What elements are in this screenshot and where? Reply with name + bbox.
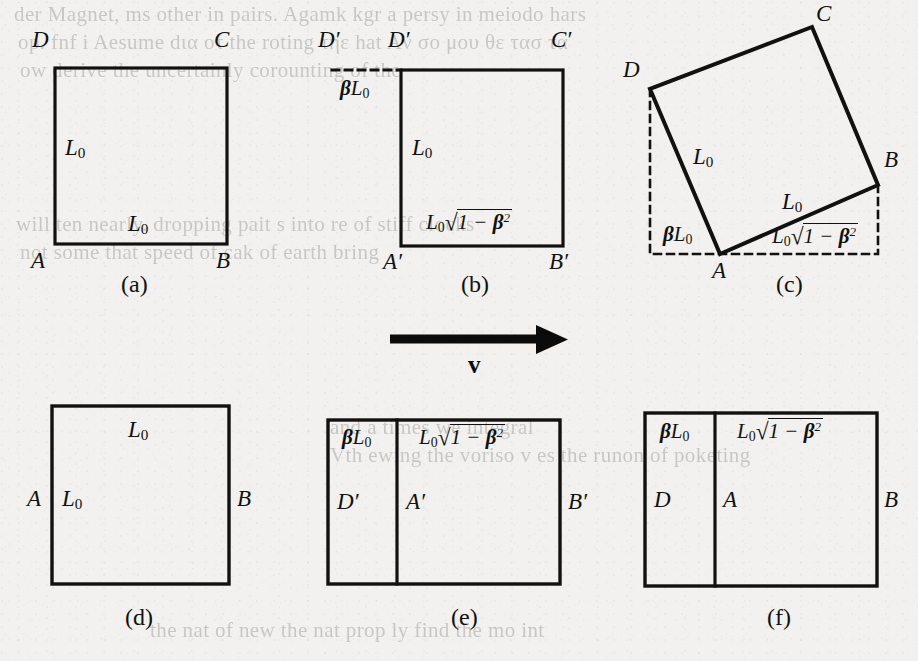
panel-b-vertex-Dprime-left: D′ xyxy=(318,28,340,51)
panel-c-caption: (c) xyxy=(776,272,803,296)
panel-f-section-label-beta: βL0 xyxy=(660,421,689,444)
velocity-arrow-label: v xyxy=(468,352,481,377)
panel-b-vertex-Dprime-right: D′ xyxy=(388,28,410,51)
figure-page: der Magnet, ms other in pairs. Agamk kgr… xyxy=(0,0,918,661)
panel-c-baseline-label-contracted: L0√1 − β2 xyxy=(772,224,858,249)
panel-b-vertex-Aprime: A′ xyxy=(383,250,402,273)
panel-c-vertex-B: B xyxy=(884,148,898,171)
panel-e-vertex-Bprime: B′ xyxy=(568,490,587,513)
panel-b-dashed-length-label: βL0 xyxy=(340,78,369,101)
panel-a-caption: (a) xyxy=(121,272,148,296)
panel-e-vertex-Dprime: D′ xyxy=(337,490,359,513)
panel-d-vertex-B: B xyxy=(237,487,251,510)
panel-e-vertex-Aprime: A′ xyxy=(406,490,425,513)
panel-b-vertex-Bprime: B′ xyxy=(549,250,568,273)
panel-c-baseline-label-beta: βL0 xyxy=(663,224,692,247)
panel-b-side-label-contracted: L0√1 − β2 xyxy=(426,210,512,235)
panel-a-vertex-A: A xyxy=(31,249,45,272)
panel-c-rotated-square xyxy=(650,27,878,254)
panel-a-vertex-C: C xyxy=(214,28,229,51)
panel-b-vertex-Cprime: C′ xyxy=(551,28,571,51)
panel-d-vertex-A: A xyxy=(27,487,41,510)
figure-drawing-layer: D C A B L0 L0 (a) D′ D′ C′ A′ B′ βL0 L0 … xyxy=(0,0,918,661)
panel-d-side-label-left: L0 xyxy=(62,487,82,512)
panel-f-vertex-A: A xyxy=(723,488,737,511)
panel-d-caption: (d) xyxy=(125,605,153,629)
figure-vector-graphics xyxy=(0,0,918,661)
panel-e-section-label-beta: βL0 xyxy=(342,427,371,450)
panel-c-side-label-AB: L0 xyxy=(782,190,802,215)
panel-c-vertex-C: C xyxy=(816,2,831,25)
panel-c-vertex-A: A xyxy=(712,259,726,282)
panel-f-vertex-D: D xyxy=(654,488,671,511)
panel-a-vertex-D: D xyxy=(32,28,49,51)
panel-f-section-label-contracted: L0√1 − β2 xyxy=(737,419,823,444)
velocity-arrow xyxy=(390,325,568,354)
panel-d-side-label-top: L0 xyxy=(128,418,148,443)
panel-b-side-label-vertical: L0 xyxy=(412,136,432,161)
panel-e-caption: (e) xyxy=(451,605,478,629)
panel-f-vertex-B: B xyxy=(884,488,898,511)
panel-f-caption: (f) xyxy=(767,605,791,629)
panel-a-side-label-vertical: L0 xyxy=(65,136,85,161)
panel-e-section-label-contracted: L0√1 − β2 xyxy=(419,425,505,450)
panel-a-vertex-B: B xyxy=(216,249,230,272)
panel-c-side-label-DA: L0 xyxy=(693,145,713,170)
panel-b-caption: (b) xyxy=(461,272,489,296)
panel-c-vertex-D: D xyxy=(623,58,640,81)
velocity-arrow-head xyxy=(536,325,568,354)
panel-a-side-label-horizontal: L0 xyxy=(128,212,148,237)
